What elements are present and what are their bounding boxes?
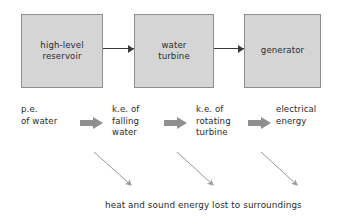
loss-arrow-icon-3 <box>261 152 297 185</box>
loss-arrow-icon-2 <box>177 152 213 185</box>
diagram-canvas: high-level reservoir water turbine gener… <box>0 0 337 221</box>
loss-caption: heat and sound energy lost to surroundin… <box>105 200 302 211</box>
loss-arrows-group <box>0 0 337 221</box>
loss-arrow-icon-1 <box>94 152 131 185</box>
